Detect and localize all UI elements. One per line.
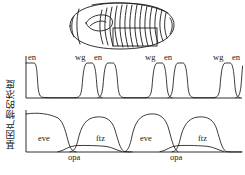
top-label-wg-3: wg: [213, 53, 223, 62]
top-label-en-2: en: [94, 53, 102, 62]
bottom-label-eve-2: eve: [140, 134, 152, 143]
chart-panel-top-en-wg: en wg en wg en wg en: [24, 54, 243, 104]
bottom-label-eve-1: eve: [38, 134, 50, 143]
top-panel-svg: [24, 54, 243, 104]
bottom-label-ftz-2: ftz: [198, 134, 207, 143]
top-label-wg-2: wg: [145, 53, 155, 62]
top-label-en-3: en: [164, 53, 172, 62]
bottom-label-opa-2: opa: [170, 153, 182, 162]
bottom-label-ftz-1: ftz: [96, 134, 105, 143]
top-panel-traces: [26, 63, 243, 98]
bottom-label-opa-1: opa: [68, 153, 80, 162]
chart-panel-bottom-eve-ftz-opa: eve ftz eve ftz opa opa: [24, 108, 243, 163]
embryo-svg: [62, 0, 180, 52]
segmentation-gene-expression-figure: 基因产物的浓度: [0, 0, 245, 175]
bottom-panel-traces: [26, 113, 242, 152]
top-label-en-4: en: [232, 53, 240, 62]
top-label-en-1: en: [28, 53, 36, 62]
y-axis-label-text: 基因产物的浓度: [6, 79, 16, 149]
y-axis-label: 基因产物的浓度: [2, 56, 20, 172]
drosophila-embryo-illustration: [62, 0, 180, 52]
top-label-wg-1: wg: [75, 53, 85, 62]
bottom-panel-svg: [24, 108, 243, 163]
